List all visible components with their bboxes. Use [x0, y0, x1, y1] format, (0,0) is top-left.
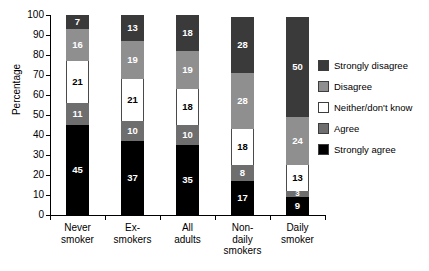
x-axis-line — [50, 215, 325, 216]
bar-segment: 19 — [176, 51, 199, 89]
bar-all-adults: 1819181035 — [176, 15, 199, 215]
legend-label: Neither/don't know — [334, 103, 412, 113]
bar-value-label: 10 — [176, 130, 199, 140]
bar-value-label: 7 — [66, 17, 89, 27]
bar-segment: 17 — [231, 181, 254, 215]
legend-swatch-icon — [318, 60, 329, 71]
bar-value-label: 28 — [231, 40, 254, 50]
bar-segment: 7 — [66, 15, 89, 29]
bar-value-label: 19 — [121, 55, 144, 65]
bar-value-label: 21 — [122, 95, 143, 105]
y-tick-label: 0 — [20, 210, 44, 220]
y-tick-label: 80 — [20, 50, 44, 60]
y-tick-label: 60 — [20, 90, 44, 100]
x-tick-mark — [325, 215, 326, 220]
legend-item: Strongly agree — [318, 139, 429, 160]
bar-segment: 21 — [121, 79, 144, 121]
bar-value-label: 50 — [286, 62, 309, 72]
bar-segment: 11 — [66, 103, 89, 125]
bar-segment: 21 — [66, 61, 89, 103]
bar-value-label: 13 — [287, 173, 308, 183]
x-axis-label-line: smokers — [208, 245, 278, 257]
x-axis-label-line: smoker — [263, 234, 333, 246]
bar-segment: 9 — [286, 197, 309, 215]
bar-value-label: 45 — [66, 165, 89, 175]
legend-swatch-icon — [318, 144, 329, 155]
y-tick-label: 20 — [20, 170, 44, 180]
legend-swatch-icon — [318, 102, 329, 113]
bar-segment: 28 — [231, 17, 254, 73]
bar-value-label: 11 — [66, 109, 89, 119]
x-tick-mark — [270, 215, 271, 220]
bar-segment: 24 — [286, 117, 309, 165]
legend-swatch-icon — [318, 123, 329, 134]
bar-non-daily-smokers: 282818817 — [231, 17, 254, 215]
y-tick-label: 10 — [20, 190, 44, 200]
bar-value-label: 18 — [232, 142, 253, 152]
y-tick-label: 100 — [20, 10, 44, 20]
bar-segment: 18 — [176, 15, 199, 51]
bar-value-label: 18 — [177, 102, 198, 112]
bar-value-label: 21 — [67, 77, 88, 87]
legend-label: Strongly agree — [334, 145, 396, 155]
legend-item: Agree — [318, 118, 429, 139]
bar-segment: 37 — [121, 141, 144, 215]
y-tick-label: 50 — [20, 110, 44, 120]
bar-value-label: 18 — [176, 28, 199, 38]
x-tick-mark — [50, 215, 51, 220]
bar-value-label: 9 — [286, 201, 309, 211]
y-tick-label: 90 — [20, 30, 44, 40]
legend-label: Agree — [334, 124, 359, 134]
x-tick-mark — [160, 215, 161, 220]
bar-value-label: 35 — [176, 175, 199, 185]
y-tick-label: 70 — [20, 70, 44, 80]
bar-ex-smokers: 1319211037 — [121, 15, 144, 215]
legend-label: Strongly disagree — [334, 61, 408, 71]
stacked-bar-chart: Percentage 0102030405060708090100 716211… — [0, 0, 429, 271]
legend-item: Strongly disagree — [318, 55, 429, 76]
bar-value-label: 16 — [66, 40, 89, 50]
bar-value-label: 24 — [286, 136, 309, 146]
x-axis-label-line: Daily — [263, 222, 333, 234]
bar-never-smoker: 716211145 — [66, 15, 89, 215]
chart-legend: Strongly disagreeDisagreeNeither/don't k… — [318, 55, 429, 160]
bar-segment: 18 — [176, 89, 199, 125]
y-tick-label: 30 — [20, 150, 44, 160]
bar-segment: 45 — [66, 125, 89, 215]
plot-area: 7162111451319211037181918103528281881750… — [50, 15, 325, 215]
bar-segment: 10 — [176, 125, 199, 145]
bar-segment: 10 — [121, 121, 144, 141]
legend-swatch-icon — [318, 81, 329, 92]
legend-label: Disagree — [334, 82, 372, 92]
bar-segment: 35 — [176, 145, 199, 215]
bar-segment: 18 — [231, 129, 254, 165]
bar-segment: 28 — [231, 73, 254, 129]
bar-value-label: 8 — [231, 168, 254, 178]
legend-item: Neither/don't know — [318, 97, 429, 118]
y-tick-label: 40 — [20, 130, 44, 140]
bar-value-label: 13 — [121, 23, 144, 33]
bar-segment: 13 — [121, 15, 144, 41]
bar-segment: 16 — [66, 29, 89, 61]
bar-value-label: 19 — [176, 65, 199, 75]
bar-daily-smoker: 50241339 — [286, 17, 309, 215]
bar-value-label: 37 — [121, 173, 144, 183]
bar-segment: 50 — [286, 17, 309, 117]
bar-value-label: 28 — [231, 96, 254, 106]
x-tick-mark — [105, 215, 106, 220]
bar-value-label: 17 — [231, 193, 254, 203]
x-axis-label: Dailysmoker — [263, 222, 333, 245]
x-tick-mark — [215, 215, 216, 220]
bar-segment: 19 — [121, 41, 144, 79]
legend-item: Disagree — [318, 76, 429, 97]
bar-segment: 8 — [231, 165, 254, 181]
bar-segment: 13 — [286, 165, 309, 191]
bar-value-label: 10 — [121, 126, 144, 136]
